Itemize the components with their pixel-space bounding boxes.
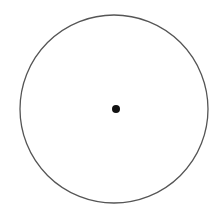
center-point	[112, 105, 120, 113]
diagram-canvas	[0, 0, 219, 216]
circle-diagram	[0, 0, 219, 216]
